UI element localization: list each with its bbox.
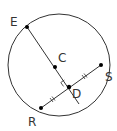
label-r: R xyxy=(28,115,36,129)
point-r xyxy=(39,106,43,110)
label-e: E xyxy=(10,15,18,29)
point-c xyxy=(53,65,57,69)
label-s: S xyxy=(105,70,113,84)
geometry-diagram: E C D S R xyxy=(0,0,117,131)
label-c: C xyxy=(58,51,66,65)
point-s xyxy=(99,63,103,67)
point-d xyxy=(67,85,71,89)
point-e xyxy=(25,25,29,29)
circle xyxy=(8,14,110,116)
label-d: D xyxy=(72,87,81,101)
